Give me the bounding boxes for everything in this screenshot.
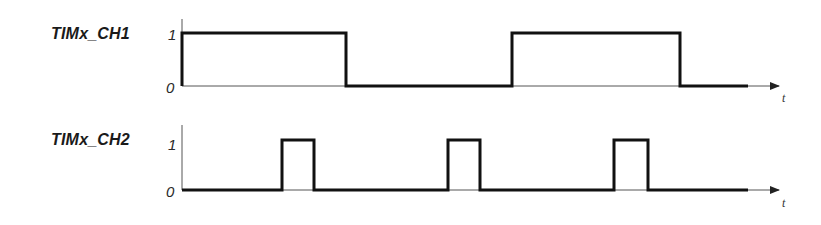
- timing-diagram: TIMx_CH1 1 0 t TIMx_CH2 1 0 t: [0, 0, 821, 225]
- waveform-ch2: [182, 140, 748, 190]
- waveform-canvas: [0, 0, 821, 225]
- axes-ch1: [182, 19, 779, 86]
- waveform-ch1: [182, 33, 748, 86]
